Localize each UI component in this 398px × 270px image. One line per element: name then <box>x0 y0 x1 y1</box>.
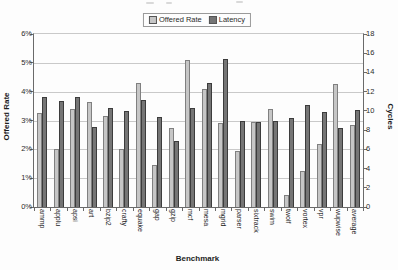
bar-group-art <box>83 34 99 207</box>
y-axis-title-left: Offered Rate <box>2 87 11 147</box>
bar-group-average <box>347 34 363 207</box>
x-axis-tick <box>314 208 315 211</box>
bar-group-mesa <box>199 34 215 207</box>
x-axis-tick <box>215 208 216 211</box>
bar-latency-ammp <box>42 97 47 207</box>
legend: Offered RateLatency <box>143 13 251 27</box>
x-axis-category-label: wupwise <box>335 209 342 236</box>
y-axis-tick-label-left: 0% <box>12 202 32 211</box>
legend-label: Offered Rate <box>159 15 202 24</box>
x-axis-category-label: gzip <box>170 209 177 222</box>
x-axis-tick <box>248 208 249 211</box>
x-axis-category-label: vortex <box>302 209 309 228</box>
bar-group-gap <box>149 34 165 207</box>
y-axis-tick-label-left: 4% <box>12 86 32 95</box>
y-axis-tick-label-left: 6% <box>12 29 32 38</box>
x-axis-title: Benchmark <box>33 254 362 263</box>
y-axis-tick-label-right: 16 <box>366 48 380 57</box>
bar-group-equake <box>133 34 149 207</box>
bar-latency-crafty <box>124 111 129 207</box>
bar-latency-bzip2 <box>108 108 113 207</box>
y-axis-tick-label-right: 14 <box>366 67 380 76</box>
legend-item-latency: Latency <box>209 15 245 24</box>
bar-latency-average <box>355 110 360 207</box>
bar-group-vpr <box>314 34 330 207</box>
bar-latency-art <box>92 127 97 207</box>
x-axis-category-label: art <box>88 209 95 217</box>
x-axis-category-label: bzip2 <box>105 209 112 226</box>
bar-latency-twolf <box>289 118 294 207</box>
x-axis-tick <box>281 208 282 211</box>
scan-artifact <box>166 2 172 4</box>
bar-group-sixtrack <box>248 34 264 207</box>
x-axis-category-label: mesa <box>203 209 210 226</box>
x-axis-category-label: ammp <box>39 209 46 228</box>
x-axis-category-label: mcf <box>187 209 194 220</box>
y-axis-tick-label-right: 12 <box>366 86 380 95</box>
x-axis-category-label: vpr <box>318 209 325 219</box>
y-axis-tick-label-right: 8 <box>366 125 380 134</box>
bar-latency-parser <box>240 121 245 207</box>
x-axis-tick <box>199 208 200 211</box>
x-axis-tick <box>149 208 150 211</box>
bar-latency-applu <box>59 101 64 207</box>
y-axis-tick-label-left: 1% <box>12 173 32 182</box>
x-axis-tick <box>264 208 265 211</box>
x-axis-tick <box>67 208 68 211</box>
y-axis-tick-label-left: 2% <box>12 144 32 153</box>
bar-latency-wupwise <box>338 128 343 207</box>
x-axis-category-label: apsi <box>72 209 79 222</box>
bar-latency-mesa <box>207 83 212 207</box>
x-axis-tick <box>50 208 51 211</box>
x-axis-tick <box>166 208 167 211</box>
bar-latency-sixtrack <box>256 122 261 207</box>
chart-figure: Offered RateLatency Offered Rate Cycles … <box>0 0 398 270</box>
scan-artifact <box>146 2 154 4</box>
x-axis-tick <box>100 208 101 211</box>
x-axis-category-label: swim <box>269 209 276 225</box>
bar-latency-vpr <box>322 112 327 207</box>
bar-group-crafty <box>116 34 132 207</box>
x-axis-category-label: sixtrack <box>253 209 260 233</box>
x-axis-tick <box>297 208 298 211</box>
x-axis-tick <box>347 208 348 211</box>
y-axis-tick-label-left: 5% <box>12 57 32 66</box>
x-axis-tick <box>231 208 232 211</box>
bar-latency-vortex <box>305 105 310 207</box>
x-axis-category-label: equake <box>137 209 144 232</box>
y-axis-tick-label-right: 18 <box>366 29 380 38</box>
legend-label: Latency <box>219 15 245 24</box>
bar-latency-gzip <box>174 141 179 207</box>
x-axis-category-label: crafty <box>121 209 128 226</box>
x-axis-tick <box>182 208 183 211</box>
bar-group-wupwise <box>330 34 346 207</box>
x-axis-tick <box>133 208 134 211</box>
bar-group-twolf <box>281 34 297 207</box>
bar-latency-equake <box>141 100 146 207</box>
x-axis-category-label: gap <box>154 209 161 221</box>
bar-group-ammp <box>34 34 50 207</box>
bar-latency-swim <box>273 121 278 208</box>
bar-group-bzip2 <box>100 34 116 207</box>
bar-group-swim <box>264 34 280 207</box>
bar-latency-gap <box>157 117 162 207</box>
bar-latency-mcf <box>190 108 195 207</box>
legend-item-offered-rate: Offered Rate <box>149 15 202 24</box>
x-axis-category-label: parser <box>236 209 243 229</box>
x-axis-tick <box>330 208 331 211</box>
x-axis-tick <box>34 208 35 211</box>
bar-latency-mgrid <box>223 59 228 207</box>
legend-swatch-icon <box>149 16 157 24</box>
x-axis-tick <box>363 208 364 211</box>
bar-group-apsi <box>67 34 83 207</box>
x-axis-category-label: applu <box>55 209 62 226</box>
y-axis-tick-label-right: 6 <box>366 144 380 153</box>
bar-group-parser <box>231 34 247 207</box>
x-axis-tick <box>83 208 84 211</box>
bar-group-applu <box>50 34 66 207</box>
bar-group-mgrid <box>215 34 231 207</box>
x-axis-tick <box>116 208 117 211</box>
bar-latency-apsi <box>75 97 80 207</box>
y-axis-tick-label-left: 3% <box>12 115 32 124</box>
y-axis-tick-label-right: 0 <box>366 202 380 211</box>
